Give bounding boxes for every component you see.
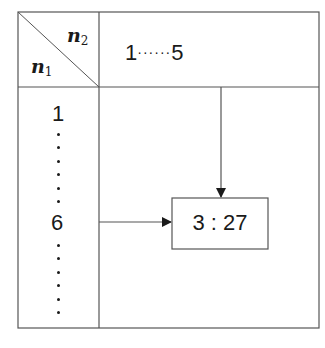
vertical-ellipsis-top: [57, 133, 60, 203]
vertical-ellipsis-bottom: [57, 244, 60, 314]
n1-label: n1: [31, 57, 52, 78]
result-value: 3 : 27: [172, 212, 268, 234]
n2-label: n2: [67, 26, 88, 47]
row-label-1: 1: [52, 103, 64, 125]
row-label-6: 6: [51, 212, 63, 234]
header-range: 1······5: [125, 42, 183, 64]
